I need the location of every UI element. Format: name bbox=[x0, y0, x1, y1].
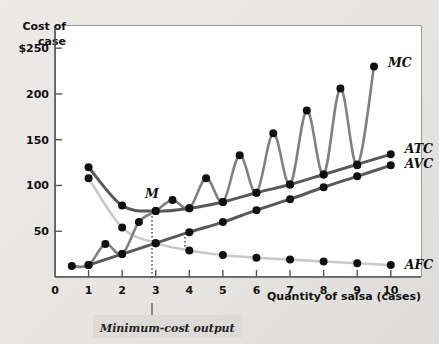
data-point-afc bbox=[353, 259, 361, 267]
x-tick-label: 3 bbox=[152, 284, 160, 297]
data-point-atc bbox=[185, 204, 193, 212]
data-point-avc bbox=[219, 218, 227, 226]
data-point-avc bbox=[252, 206, 260, 214]
y-tick-label: 200 bbox=[26, 88, 49, 101]
data-point-afc bbox=[252, 254, 260, 262]
data-point-atc bbox=[320, 170, 328, 178]
x-axis-title: Quantity of salsa (cases) bbox=[267, 290, 421, 303]
x-tick-label: 1 bbox=[85, 284, 93, 297]
data-point-afc bbox=[387, 261, 395, 269]
y-tick-label: 100 bbox=[26, 179, 49, 192]
chart-svg: 50100150200$250 012345678910 AFCMCAVCATC… bbox=[0, 0, 439, 344]
data-point-mc bbox=[68, 262, 76, 270]
curve-avc bbox=[89, 165, 391, 265]
data-point-mc bbox=[370, 62, 378, 70]
data-point-atc bbox=[85, 163, 93, 171]
series-label-atc: ATC bbox=[404, 141, 433, 156]
data-point-afc bbox=[286, 256, 294, 264]
minimum-cost-output-label: Minimum-cost output bbox=[100, 322, 235, 335]
series-label-afc: AFC bbox=[404, 257, 434, 272]
series-group bbox=[68, 62, 395, 270]
data-point-mc bbox=[169, 196, 177, 204]
cost-curves-figure: Cost of case 50100150200$250 01234567891… bbox=[0, 0, 439, 344]
data-point-atc bbox=[219, 198, 227, 206]
y-tick-label: 50 bbox=[34, 225, 50, 238]
x-tick-label: 2 bbox=[118, 284, 126, 297]
data-point-afc bbox=[185, 246, 193, 254]
data-point-avc bbox=[286, 195, 294, 203]
data-point-mc bbox=[135, 218, 143, 226]
x-tick-label: 0 bbox=[51, 284, 59, 297]
data-point-avc bbox=[353, 172, 361, 180]
curve-atc bbox=[89, 154, 391, 211]
data-point-afc bbox=[219, 251, 227, 259]
data-point-atc bbox=[387, 150, 395, 158]
data-point-mc bbox=[236, 151, 244, 159]
series-afc bbox=[85, 174, 395, 269]
minimum-point-label: M bbox=[144, 186, 160, 201]
data-point-atc bbox=[286, 181, 294, 189]
data-point-afc bbox=[320, 257, 328, 265]
x-tick-label: 5 bbox=[219, 284, 227, 297]
y-tick-label: 150 bbox=[26, 134, 49, 147]
data-point-avc bbox=[387, 161, 395, 169]
data-point-mc bbox=[336, 84, 344, 92]
data-point-avc bbox=[152, 239, 160, 247]
series-atc bbox=[85, 150, 395, 215]
data-point-afc bbox=[118, 224, 126, 232]
data-point-atc bbox=[353, 160, 361, 168]
data-point-atc bbox=[252, 189, 260, 197]
data-point-avc bbox=[85, 261, 93, 269]
data-point-mc bbox=[101, 240, 109, 248]
guide-lines bbox=[152, 212, 185, 315]
series-mc bbox=[68, 62, 378, 270]
data-point-avc bbox=[320, 183, 328, 191]
series-label-mc: MC bbox=[387, 55, 412, 70]
data-point-mc bbox=[202, 174, 210, 182]
data-point-avc bbox=[185, 228, 193, 236]
data-point-mc bbox=[269, 129, 277, 137]
x-tick-label: 6 bbox=[253, 284, 261, 297]
point-label-group: M bbox=[144, 186, 160, 201]
series-label-avc: AVC bbox=[404, 156, 433, 171]
data-point-atc bbox=[118, 202, 126, 210]
data-point-mc bbox=[303, 106, 311, 114]
curve-afc bbox=[89, 178, 391, 265]
x-tick-label: 4 bbox=[185, 284, 193, 297]
data-point-avc bbox=[118, 250, 126, 258]
series-avc bbox=[85, 161, 395, 269]
curve-mc bbox=[72, 66, 374, 267]
minimum-cost-output-annotation: Minimum-cost output bbox=[93, 315, 242, 338]
data-point-atc bbox=[152, 207, 160, 215]
y-tick-label: $250 bbox=[18, 42, 49, 55]
data-point-afc bbox=[85, 174, 93, 182]
